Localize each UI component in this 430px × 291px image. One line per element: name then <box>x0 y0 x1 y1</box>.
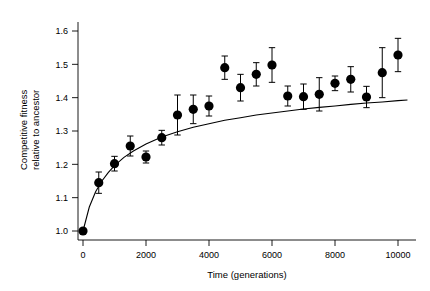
y-axis-title-line1: Competitive fitness <box>18 89 29 170</box>
y-tick-label: 1.2 <box>55 160 68 170</box>
x-tick-label: 6000 <box>262 250 282 260</box>
data-point <box>141 152 150 161</box>
data-point <box>252 70 261 79</box>
data-point <box>110 159 119 168</box>
data-point <box>362 92 371 101</box>
data-point <box>94 178 103 187</box>
data-point <box>204 101 213 110</box>
chart-background <box>0 0 430 291</box>
data-point <box>157 133 166 142</box>
x-tick-label: 2000 <box>136 250 156 260</box>
data-point <box>315 90 324 99</box>
data-point <box>378 68 387 77</box>
data-point <box>220 63 229 72</box>
x-tick-label: 10000 <box>385 250 410 260</box>
data-point <box>283 91 292 100</box>
fitness-trajectory-chart: 1.01.11.21.31.41.51.6 020004000600080001… <box>0 0 430 291</box>
data-point <box>393 50 402 59</box>
y-tick-label: 1.1 <box>55 193 68 203</box>
data-point <box>189 105 198 114</box>
x-tick-label: 0 <box>80 250 85 260</box>
y-tick-label: 1.0 <box>55 226 68 236</box>
y-axis-title-line2: relative to ancestor <box>30 90 41 170</box>
data-point <box>346 75 355 84</box>
y-tick-label: 1.5 <box>55 60 68 70</box>
data-point <box>126 141 135 150</box>
data-point <box>78 226 87 235</box>
data-point <box>236 83 245 92</box>
data-point <box>299 92 308 101</box>
x-tick-label: 4000 <box>199 250 219 260</box>
y-tick-label: 1.4 <box>55 93 68 103</box>
y-tick-label: 1.6 <box>55 26 68 36</box>
y-tick-label: 1.3 <box>55 126 68 136</box>
data-point <box>173 110 182 119</box>
x-axis-title: Time (generations) <box>207 269 286 280</box>
data-point <box>267 60 276 69</box>
data-point <box>330 79 339 88</box>
x-tick-label: 8000 <box>325 250 345 260</box>
chart-svg: 1.01.11.21.31.41.51.6 020004000600080001… <box>0 0 430 291</box>
